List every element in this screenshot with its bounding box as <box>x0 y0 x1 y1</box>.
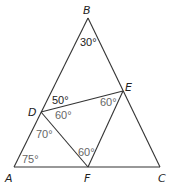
segment-AB <box>14 18 88 167</box>
vertex-label-D: D <box>28 106 36 119</box>
angle-label-D-bottom: 70° <box>36 128 53 140</box>
angle-label-D-top: 50° <box>52 94 69 106</box>
angle-label-E: 60° <box>100 96 117 108</box>
vertex-label-B: B <box>83 4 91 17</box>
vertex-label-E: E <box>125 81 132 94</box>
angle-label-F: 60° <box>78 146 95 158</box>
vertex-label-F: F <box>84 172 91 185</box>
angle-label-D-inner: 60° <box>55 109 72 121</box>
angle-label-A: 75° <box>22 153 39 165</box>
vertex-label-A: A <box>4 172 13 185</box>
vertex-label-C: C <box>158 172 166 185</box>
angle-label-B: 30° <box>80 36 97 48</box>
geometry-diagram: B A C D E F 30° 50° 60° 70° 60° 60° 75° <box>0 0 171 187</box>
